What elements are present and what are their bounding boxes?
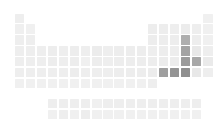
element-cell-hf [48,68,57,77]
element-cell-tb [137,99,146,108]
element-cell-ho [159,99,168,108]
element-cell-as [170,46,179,55]
element-cell-re [81,68,90,77]
element-cell-ag [126,57,135,66]
element-cell-eu [114,99,123,108]
element-cell-es [159,110,168,119]
element-cell-am [114,110,123,119]
element-cell-cn [137,79,146,88]
element-cell-pu [103,110,112,119]
element-cell-te [181,57,190,66]
element-cell-au [126,68,135,77]
element-cell-ni [114,46,123,55]
element-cell-cm [126,110,135,119]
element-cell-i [192,57,201,66]
element-cell-sb [170,57,179,66]
element-cell-he [203,14,212,23]
element-cell-sc [37,46,46,55]
element-cell-hg [137,68,146,77]
element-cell-no [192,110,201,119]
element-cell-po [181,68,190,77]
element-cell-s [181,35,190,44]
element-cell-k [15,46,24,55]
element-cell-gd [126,99,135,108]
element-cell-fr [15,79,24,88]
element-cell-cr [70,46,79,55]
element-cell-pb [159,68,168,77]
element-cell-ta [59,68,68,77]
element-cell-v [59,46,68,55]
element-cell-cl [192,35,201,44]
element-cell-pm [92,99,101,108]
element-cell-al [148,35,157,44]
element-cell-ac [48,110,57,119]
element-cell-f [192,24,201,33]
element-cell-xe [203,57,212,66]
element-cell-ca [26,46,35,55]
element-cell-y [37,57,46,66]
element-cell-o [181,24,190,33]
element-cell-at [192,68,201,77]
element-cell-kr [203,46,212,55]
element-cell-la [48,99,57,108]
element-cell-se [181,46,190,55]
element-cell-cd [137,57,146,66]
element-cell-lu [37,68,46,77]
element-cell-br [192,46,201,55]
element-cell-bi [170,68,179,77]
element-cell-nd [81,99,90,108]
element-cell-nh [148,79,157,88]
element-cell-mo [70,57,79,66]
element-cell-ge [159,46,168,55]
element-cell-ir [103,68,112,77]
element-cell-h [15,14,24,23]
element-cell-fm [170,110,179,119]
element-cell-os [92,68,101,77]
element-cell-nb [59,57,68,66]
element-cell-be [26,24,35,33]
element-cell-rf [48,79,57,88]
element-cell-li [15,24,24,33]
element-cell-sm [103,99,112,108]
element-cell-cs [15,68,24,77]
element-cell-na [15,35,24,44]
element-cell-ar [203,35,212,44]
element-cell-mt [103,79,112,88]
element-cell-cf [148,110,157,119]
element-cell-pa [70,110,79,119]
element-cell-p [170,35,179,44]
element-cell-cu [126,46,135,55]
element-cell-sn [159,57,168,66]
element-cell-lr [37,79,46,88]
element-cell-ce [59,99,68,108]
element-cell-pd [114,57,123,66]
element-cell-mn [81,46,90,55]
element-cell-bh [81,79,90,88]
element-cell-pt [114,68,123,77]
element-cell-tm [181,99,190,108]
element-cell-u [81,110,90,119]
element-cell-co [103,46,112,55]
element-cell-n [170,24,179,33]
element-cell-tc [81,57,90,66]
element-cell-sr [26,57,35,66]
element-cell-rn [203,68,212,77]
element-cell-dy [148,99,157,108]
element-cell-ba [26,68,35,77]
element-cell-ds [114,79,123,88]
element-cell-rb [15,57,24,66]
element-cell-zn [137,46,146,55]
element-cell-np [92,110,101,119]
element-cell-pr [70,99,79,108]
element-cell-tl [148,68,157,77]
element-cell-c [159,24,168,33]
element-cell-hs [92,79,101,88]
element-cell-th [59,110,68,119]
element-cell-w [70,68,79,77]
element-cell-ti [48,46,57,55]
element-cell-fe [92,46,101,55]
element-cell-zr [48,57,57,66]
periodic-table-heatmap [0,0,220,138]
element-cell-sg [70,79,79,88]
element-cell-yb [192,99,201,108]
